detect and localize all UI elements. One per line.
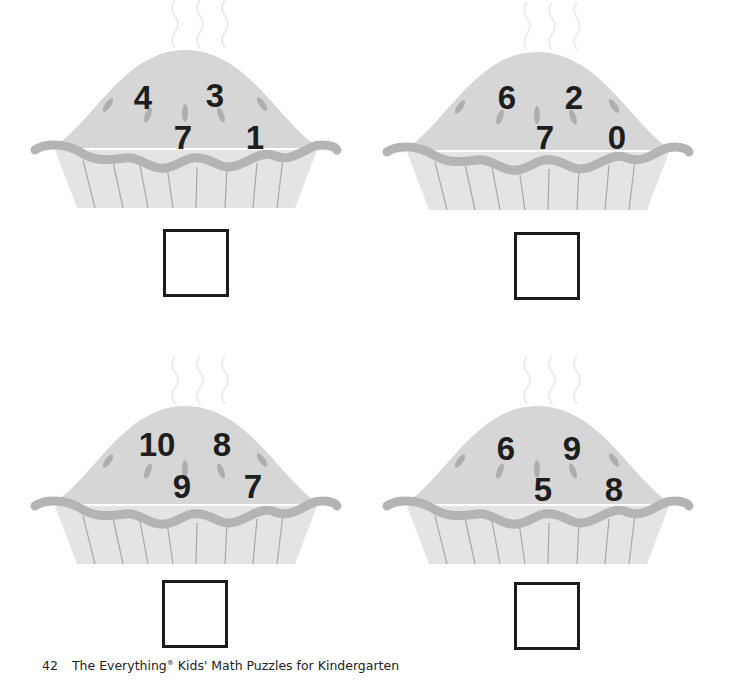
pie-number: 6 [498, 81, 516, 114]
book-title-part1: The Everything [72, 658, 167, 673]
answer-box-1[interactable] [163, 229, 229, 297]
pie-number: 7 [244, 470, 262, 503]
page-number: 42 [42, 658, 58, 673]
pie-illustration [25, 356, 347, 566]
book-title: The Everything® Kids' Math Puzzles for K… [72, 658, 399, 673]
pie-number: 2 [565, 81, 583, 114]
pie-number: 10 [139, 428, 176, 461]
pie-number: 5 [534, 473, 552, 506]
pie-number: 8 [213, 428, 231, 461]
pie-number: 9 [563, 432, 581, 465]
pie-illustration [25, 0, 347, 210]
pie-number: 9 [173, 470, 191, 503]
page-footer: 42The Everything® Kids' Math Puzzles for… [42, 658, 399, 673]
pie-number: 8 [605, 473, 623, 506]
pie-illustration [377, 2, 699, 212]
pie-number: 7 [174, 121, 192, 154]
answer-box-4[interactable] [514, 582, 580, 650]
answer-box-3[interactable] [162, 580, 228, 648]
pie-number: 7 [536, 121, 554, 154]
registered-mark: ® [167, 659, 174, 667]
book-title-part2: Kids' Math Puzzles for Kindergarten [174, 658, 399, 673]
pie-number: 1 [246, 121, 264, 154]
pie-number: 0 [608, 121, 626, 154]
pie-illustration [377, 356, 699, 566]
pie-number: 4 [134, 81, 152, 114]
pie-number: 3 [206, 79, 224, 112]
pie-number: 6 [497, 432, 515, 465]
answer-box-2[interactable] [514, 232, 580, 300]
